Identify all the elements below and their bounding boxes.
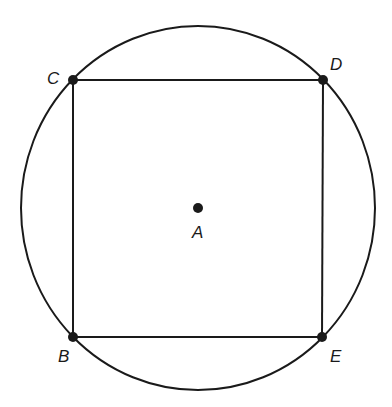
point-d-label: D [330,55,342,74]
point-e-label: E [330,347,342,366]
segment-de [322,80,323,337]
point-b-dot [68,332,78,342]
point-e-dot [317,332,327,342]
point-d-dot [318,75,328,85]
point-b-label: B [58,347,69,366]
points: ABCDE [47,55,342,366]
point-c-label: C [47,69,60,88]
geometry-diagram: ABCDE [0,0,392,407]
point-c-dot [68,75,78,85]
point-a-dot [193,203,203,213]
point-a-label: A [191,223,203,242]
